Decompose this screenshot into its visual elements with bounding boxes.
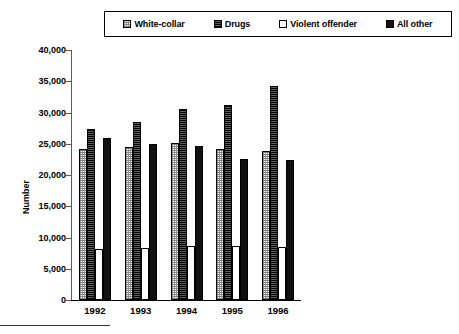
bar[interactable] (87, 129, 95, 300)
legend-entry[interactable]: All other (386, 19, 433, 29)
y-axis-tick-mark (66, 81, 71, 82)
legend-entry[interactable]: Violent offender (279, 19, 357, 29)
bar[interactable] (224, 105, 232, 300)
y-axis-tick-labels: 05,00010,00015,00020,00025,00030,00035,0… (14, 40, 66, 290)
y-axis-tick-mark (66, 300, 71, 301)
bar[interactable] (125, 147, 133, 300)
bar[interactable] (103, 138, 111, 301)
bar[interactable] (286, 160, 294, 300)
bar[interactable] (149, 144, 157, 300)
y-axis-tick-mark (66, 269, 71, 270)
bar[interactable] (141, 248, 149, 301)
legend-label: All other (397, 19, 433, 29)
y-axis-tick-mark (66, 206, 71, 207)
bar[interactable] (195, 146, 203, 300)
x-axis-tick-label: 1996 (268, 305, 289, 316)
y-axis-tick-mark (66, 238, 71, 239)
y-axis-tick-label: 5,000 (14, 264, 66, 274)
bar-group (216, 50, 248, 300)
bar[interactable] (278, 247, 286, 300)
legend-label: Violent offender (290, 19, 357, 29)
bar[interactable] (171, 143, 179, 300)
y-axis-tick-label: 35,000 (14, 76, 66, 86)
bar[interactable] (95, 249, 103, 300)
plot-area: Number 05,00010,00015,00020,00025,00030,… (0, 40, 459, 302)
bar[interactable] (232, 246, 240, 300)
legend-label: Drugs (225, 19, 251, 29)
bar[interactable] (179, 109, 187, 300)
x-axis-tick-labels: 19921993199419951996 (72, 305, 301, 321)
bar[interactable] (270, 86, 278, 300)
bar-group (262, 50, 294, 300)
y-axis-tick-label: 15,000 (14, 201, 66, 211)
legend-entry[interactable]: Drugs (214, 19, 251, 29)
legend-swatch-icon (279, 20, 287, 28)
legend-swatch-icon (386, 20, 394, 28)
bar[interactable] (133, 122, 141, 300)
y-axis-tick-label: 20,000 (14, 170, 66, 180)
bar-groups-container (72, 50, 301, 300)
x-axis-line (71, 300, 301, 301)
y-axis-tick-mark (66, 50, 71, 51)
legend-swatch-icon (214, 20, 222, 28)
bar[interactable] (79, 149, 87, 300)
bar[interactable] (187, 246, 195, 300)
y-axis-tick-label: 40,000 (14, 45, 66, 55)
y-axis-tick-label: 0 (14, 295, 66, 305)
y-axis-tick-label: 30,000 (14, 108, 66, 118)
bar-group (79, 50, 111, 300)
y-axis-tick-mark (66, 175, 71, 176)
bar-chart-figure: White-collarDrugsViolent offenderAll oth… (0, 0, 459, 334)
x-axis-tick-label: 1992 (84, 305, 105, 316)
y-axis-tick-label: 25,000 (14, 139, 66, 149)
bar-group (125, 50, 157, 300)
footer-divider (0, 325, 110, 326)
y-axis-tick-label: 10,000 (14, 233, 66, 243)
y-axis-tick-mark (66, 144, 71, 145)
legend-entry[interactable]: White-collar (123, 19, 184, 29)
legend-swatch-icon (123, 20, 131, 28)
legend-label: White-collar (134, 19, 184, 29)
bar[interactable] (262, 151, 270, 300)
chart-legend: White-collarDrugsViolent offenderAll oth… (104, 11, 452, 37)
bar[interactable] (216, 149, 224, 300)
bar[interactable] (240, 159, 248, 300)
x-axis-tick-label: 1995 (222, 305, 243, 316)
x-axis-tick-label: 1993 (130, 305, 151, 316)
x-axis-tick-label: 1994 (176, 305, 197, 316)
bar-group (171, 50, 203, 300)
y-axis-tick-mark (66, 113, 71, 114)
